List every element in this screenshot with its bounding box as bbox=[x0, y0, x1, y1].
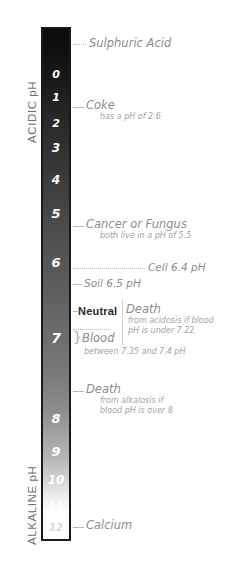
callout-coke-sub: has a pH of 2.6 bbox=[86, 112, 161, 122]
callout-death-alkalosis-sub1: from alkalosis if bbox=[86, 396, 173, 406]
callout-death-acidosis-sub2: pH is under 7.22 bbox=[126, 326, 214, 336]
ph-tick-9: 9 bbox=[43, 445, 69, 458]
leader-line-calcium bbox=[73, 527, 84, 528]
ph-tick-5: 5 bbox=[43, 207, 69, 220]
ph-gradient bbox=[43, 29, 69, 539]
axis-label-alkaline: ALKALINE pH bbox=[26, 425, 38, 545]
callout-coke: Coke has a pH of 2.6 bbox=[86, 99, 161, 122]
ph-tick-3: 3 bbox=[43, 142, 69, 154]
leader-line-cancer bbox=[73, 226, 84, 227]
callout-death-acidosis: Death from acidosis if blood pH is under… bbox=[126, 303, 214, 336]
callout-sulphuric-title: Sulphuric Acid bbox=[89, 37, 171, 50]
callout-cell: Cell 6.4 pH bbox=[148, 261, 206, 273]
leader-line-coke bbox=[73, 107, 84, 108]
callout-death-acidosis-sub1: from acidosis if blood bbox=[126, 316, 214, 326]
callout-cancer-title: Cancer or Fungus bbox=[86, 218, 191, 231]
callout-neutral: Neutral bbox=[78, 305, 117, 317]
callout-death-alkalosis: Death from alkalosis if blood pH is over… bbox=[86, 383, 173, 416]
ph-tick-1: 1 bbox=[43, 92, 69, 103]
ph-tick-7: 7 bbox=[43, 331, 69, 345]
callout-blood-sub: between 7.35 and 7.4 pH bbox=[84, 347, 185, 356]
ph-tick-6: 6 bbox=[43, 256, 69, 269]
leader-line-death-alkalosis bbox=[73, 391, 84, 392]
ph-tick-12: 12 bbox=[43, 523, 69, 533]
leader-line-soil bbox=[73, 284, 82, 285]
callout-death-acidosis-title: Death bbox=[126, 303, 214, 316]
callout-sulphuric-acid: Sulphuric Acid bbox=[89, 37, 171, 50]
callout-coke-title: Coke bbox=[86, 99, 161, 112]
callout-calcium: Calcium bbox=[86, 519, 132, 532]
leader-line-cell bbox=[73, 268, 145, 269]
ph-tick-2: 2 bbox=[43, 118, 69, 129]
ph-tick-11: 11 bbox=[43, 501, 69, 512]
callout-soil: Soil 6.5 pH bbox=[84, 277, 141, 289]
callout-death-alkalosis-title: Death bbox=[86, 383, 173, 396]
callout-blood-title: Blood bbox=[82, 331, 114, 345]
callout-death-alkalosis-sub2: blood pH is over 8 bbox=[86, 406, 173, 416]
blood-brace-icon: } bbox=[73, 330, 82, 344]
callout-cancer-sub: both live in a pH of 5.5 bbox=[86, 231, 191, 241]
axis-label-acidic: ACIDIC pH bbox=[26, 23, 38, 143]
divider-neutral-death bbox=[122, 300, 123, 346]
callout-calcium-title: Calcium bbox=[86, 519, 132, 532]
ph-tick-10: 10 bbox=[43, 474, 69, 486]
callout-cancer-fungus: Cancer or Fungus both live in a pH of 5.… bbox=[86, 218, 191, 241]
ph-tick-0: 0 bbox=[43, 69, 69, 80]
ph-tick-4: 4 bbox=[43, 174, 69, 186]
leader-line-sulphuric bbox=[74, 44, 86, 45]
ph-scale-bar: 0 1 2 3 4 5 6 7 8 9 10 11 12 bbox=[41, 27, 71, 541]
ph-tick-8: 8 bbox=[43, 412, 69, 425]
